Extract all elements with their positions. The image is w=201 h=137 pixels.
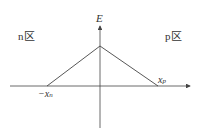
axis-label-E: E	[96, 13, 103, 24]
field-profile	[47, 46, 158, 86]
region-n-label: n区	[18, 31, 35, 42]
region-p-label: p区	[165, 31, 182, 42]
neg-xn-label: −xn	[38, 89, 53, 99]
xp-label: xp	[158, 75, 166, 85]
